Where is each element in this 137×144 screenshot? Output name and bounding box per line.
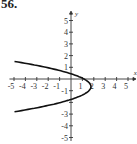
svg-text:-1: -1 xyxy=(53,82,60,91)
svg-text:-1: -1 xyxy=(61,87,68,96)
svg-text:-4: -4 xyxy=(19,82,26,91)
svg-text:3: 3 xyxy=(101,82,105,91)
svg-text:x: x xyxy=(133,69,137,77)
svg-text:y: y xyxy=(74,10,79,18)
axes xyxy=(9,11,136,141)
svg-text:4: 4 xyxy=(64,28,68,37)
svg-text:-3: -3 xyxy=(61,110,68,119)
svg-text:2: 2 xyxy=(64,52,68,61)
svg-text:4: 4 xyxy=(113,82,117,91)
svg-text:-5: -5 xyxy=(61,134,68,143)
svg-text:1: 1 xyxy=(78,82,82,91)
svg-text:-2: -2 xyxy=(42,82,49,91)
svg-text:-4: -4 xyxy=(61,122,68,131)
svg-text:-3: -3 xyxy=(30,82,37,91)
svg-text:-5: -5 xyxy=(8,82,15,91)
svg-text:5: 5 xyxy=(64,17,68,26)
svg-text:5: 5 xyxy=(124,82,128,91)
tick-labels: -5-4-3-2-11234554321-1-3-4-5xy xyxy=(8,10,137,143)
graph: -5-4-3-2-11234554321-1-3-4-5xy xyxy=(0,0,137,144)
svg-text:3: 3 xyxy=(64,40,68,49)
svg-text:1: 1 xyxy=(64,63,68,72)
